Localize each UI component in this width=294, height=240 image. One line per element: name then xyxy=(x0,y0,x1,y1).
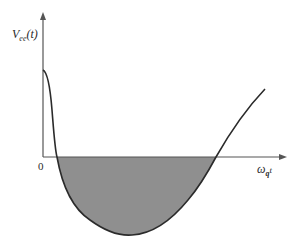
x-axis-label: ωqt xyxy=(257,162,272,178)
potential-diagram xyxy=(0,0,294,240)
y-axis-arrow-icon xyxy=(40,12,46,20)
origin-label: 0 xyxy=(38,160,44,172)
y-axis-label: Vee(t) xyxy=(12,27,38,43)
x-axis-arrow-icon xyxy=(279,154,287,160)
